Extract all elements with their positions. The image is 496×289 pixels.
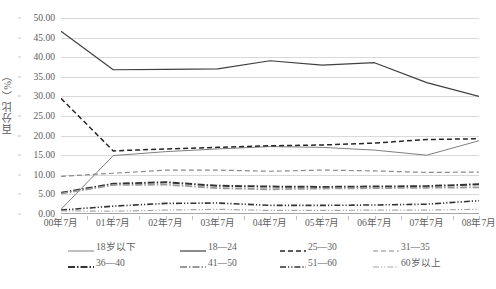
y-axis-tick-mark	[18, 18, 21, 19]
legend-label: 41—50	[208, 257, 237, 268]
legend-item[interactable]: 41—50	[180, 257, 237, 268]
y-axis-tick-mark	[18, 155, 21, 156]
legend-swatch-icon	[180, 258, 206, 268]
legend-label: 31—35	[401, 241, 430, 252]
y-axis-tick-mark	[18, 214, 21, 215]
y-axis-tick-mark	[18, 37, 21, 38]
x-axis-tick-mark	[61, 216, 62, 220]
x-axis-tick-mark	[322, 216, 323, 220]
x-axis-minor-tick-mark	[139, 216, 140, 220]
x-axis-line	[61, 213, 479, 214]
legend-label: 18—24	[208, 241, 237, 252]
x-axis-tick-mark	[218, 216, 219, 220]
y-axis-tick-label: 10.00	[33, 170, 55, 180]
y-axis-tick-mark	[18, 194, 21, 195]
legend-swatch-icon	[280, 258, 306, 268]
legend-item[interactable]: 31—35	[373, 241, 430, 252]
legend-swatch-icon	[68, 242, 94, 252]
y-axis-tick-mark	[18, 174, 21, 175]
y-axis-tick-mark	[18, 57, 21, 58]
series-line	[61, 170, 479, 176]
x-axis-tick-mark	[479, 216, 480, 220]
legend-swatch-icon	[373, 242, 399, 252]
y-axis-tick-labels: 0.005.0010.0015.0020.0025.0030.0035.0040…	[18, 18, 58, 214]
x-axis-tick-mark	[113, 216, 114, 220]
x-axis-tick-mark	[375, 216, 376, 220]
y-axis-tick-label: 20.00	[33, 131, 55, 141]
y-axis-tick-label: 45.00	[33, 33, 55, 43]
legend-label: 51—60	[308, 257, 337, 268]
legend-item[interactable]: 18岁以下	[68, 241, 136, 252]
plot-area	[61, 18, 479, 214]
y-axis-tick-label: 35.00	[33, 72, 55, 82]
x-axis-tick-mark	[166, 216, 167, 220]
y-axis-tick-mark	[18, 116, 21, 117]
legend-label: 18岁以下	[96, 241, 136, 252]
x-axis-minor-tick-mark	[87, 216, 88, 220]
legend-label: 60岁以上	[401, 257, 441, 268]
y-axis-tick-mark	[18, 96, 21, 97]
y-axis-title: 百分比（%）	[2, 70, 18, 134]
x-axis-tick-mark	[427, 216, 428, 220]
legend-row: 18岁以下18—2425—3031—35	[68, 239, 468, 254]
legend-item[interactable]: 36—40	[68, 257, 125, 268]
x-axis-minor-tick-mark	[453, 216, 454, 220]
legend-swatch-icon	[180, 242, 206, 252]
series-line	[61, 98, 479, 151]
legend-label: 36—40	[96, 257, 125, 268]
x-axis-minor-tick-mark	[192, 216, 193, 220]
y-axis-tick-label: 5.00	[38, 189, 55, 199]
y-axis-tick-mark	[18, 135, 21, 136]
x-axis-minor-tick-mark	[296, 216, 297, 220]
chart-legend: 18岁以下18—2425—3031—3536—4041—5051—6060岁以上	[68, 239, 468, 273]
legend-item[interactable]: 51—60	[280, 257, 337, 268]
legend-item[interactable]: 25—30	[280, 241, 337, 252]
y-axis-tick-label: 40.00	[33, 52, 55, 62]
y-axis-tick-label: 50.00	[33, 13, 55, 23]
y-axis-tick-label: 15.00	[33, 150, 55, 160]
series-line	[61, 31, 479, 96]
legend-label: 25—30	[308, 241, 337, 252]
legend-swatch-icon	[68, 258, 94, 268]
legend-item[interactable]: 18—24	[180, 241, 237, 252]
series-line	[61, 201, 479, 210]
y-axis-tick-mark	[18, 76, 21, 77]
x-axis-tick-mark	[270, 216, 271, 220]
legend-swatch-icon	[280, 242, 306, 252]
legend-swatch-icon	[373, 258, 399, 268]
x-axis-tick-labels: 00年7月01年7月02年7月03年7月04年7月05年7月06年7月07年7月…	[61, 216, 479, 234]
y-axis-tick-label: 25.00	[33, 111, 55, 121]
x-axis-minor-tick-mark	[348, 216, 349, 220]
legend-item[interactable]: 60岁以上	[373, 257, 441, 268]
x-axis-minor-tick-mark	[244, 216, 245, 220]
x-axis-minor-tick-mark	[401, 216, 402, 220]
y-axis-tick-label: 30.00	[33, 91, 55, 101]
series-line	[61, 209, 479, 211]
series-lines	[61, 18, 479, 214]
legend-row: 36—4041—5051—6060岁以上	[68, 255, 468, 270]
